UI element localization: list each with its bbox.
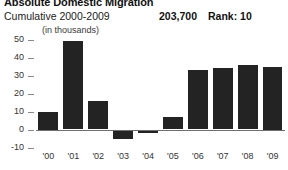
y-axis-tick-mark: [28, 94, 34, 95]
y-axis-tick-label: 20: [0, 89, 24, 98]
x-axis-tick-label: '05: [161, 152, 186, 161]
y-axis-tick-label: 30: [0, 71, 24, 80]
y-axis-tick-mark: [28, 148, 34, 149]
x-axis-tick-label: '07: [210, 152, 235, 161]
bar-y00[interactable]: [38, 112, 58, 130]
x-axis-tick-label: '01: [61, 152, 86, 161]
bar-y07[interactable]: [213, 68, 233, 129]
bar-y05[interactable]: [163, 117, 183, 130]
x-axis-tick-label: '03: [111, 152, 136, 161]
y-axis-tick-label: 50: [0, 35, 24, 44]
x-axis-tick-label: '09: [260, 152, 285, 161]
y-axis-tick-mark: [28, 40, 34, 41]
x-axis-tick-label: '08: [235, 152, 260, 161]
chart-card: Absolute Domestic Migration Cumulative 2…: [0, 0, 288, 170]
bar-y09[interactable]: [263, 67, 283, 130]
y-axis-tick-label: 40: [0, 53, 24, 62]
y-axis-tick-label: 10: [0, 107, 24, 116]
y-axis-tick-mark: [28, 112, 34, 113]
y-axis-tick-label: 0: [0, 125, 24, 134]
y-axis-tick-mark: [28, 130, 34, 131]
x-axis-tick-label: '04: [136, 152, 161, 161]
zero-baseline: [36, 130, 285, 131]
bar-y06[interactable]: [188, 70, 208, 129]
x-axis-tick-label: '06: [185, 152, 210, 161]
bar-y08[interactable]: [238, 65, 258, 130]
bar-y02[interactable]: [88, 101, 108, 130]
y-axis-tick-mark: [28, 76, 34, 77]
bar-chart-plot: 50403020100-10'00'01'02'03'04'05'06'07'0…: [0, 0, 288, 170]
bar-y01[interactable]: [63, 41, 83, 129]
x-axis-tick-label: '00: [36, 152, 61, 161]
bar-y03[interactable]: [113, 130, 133, 139]
x-axis-tick-label: '02: [86, 152, 111, 161]
y-axis-tick-label: -10: [0, 143, 24, 152]
y-axis-tick-mark: [28, 58, 34, 59]
